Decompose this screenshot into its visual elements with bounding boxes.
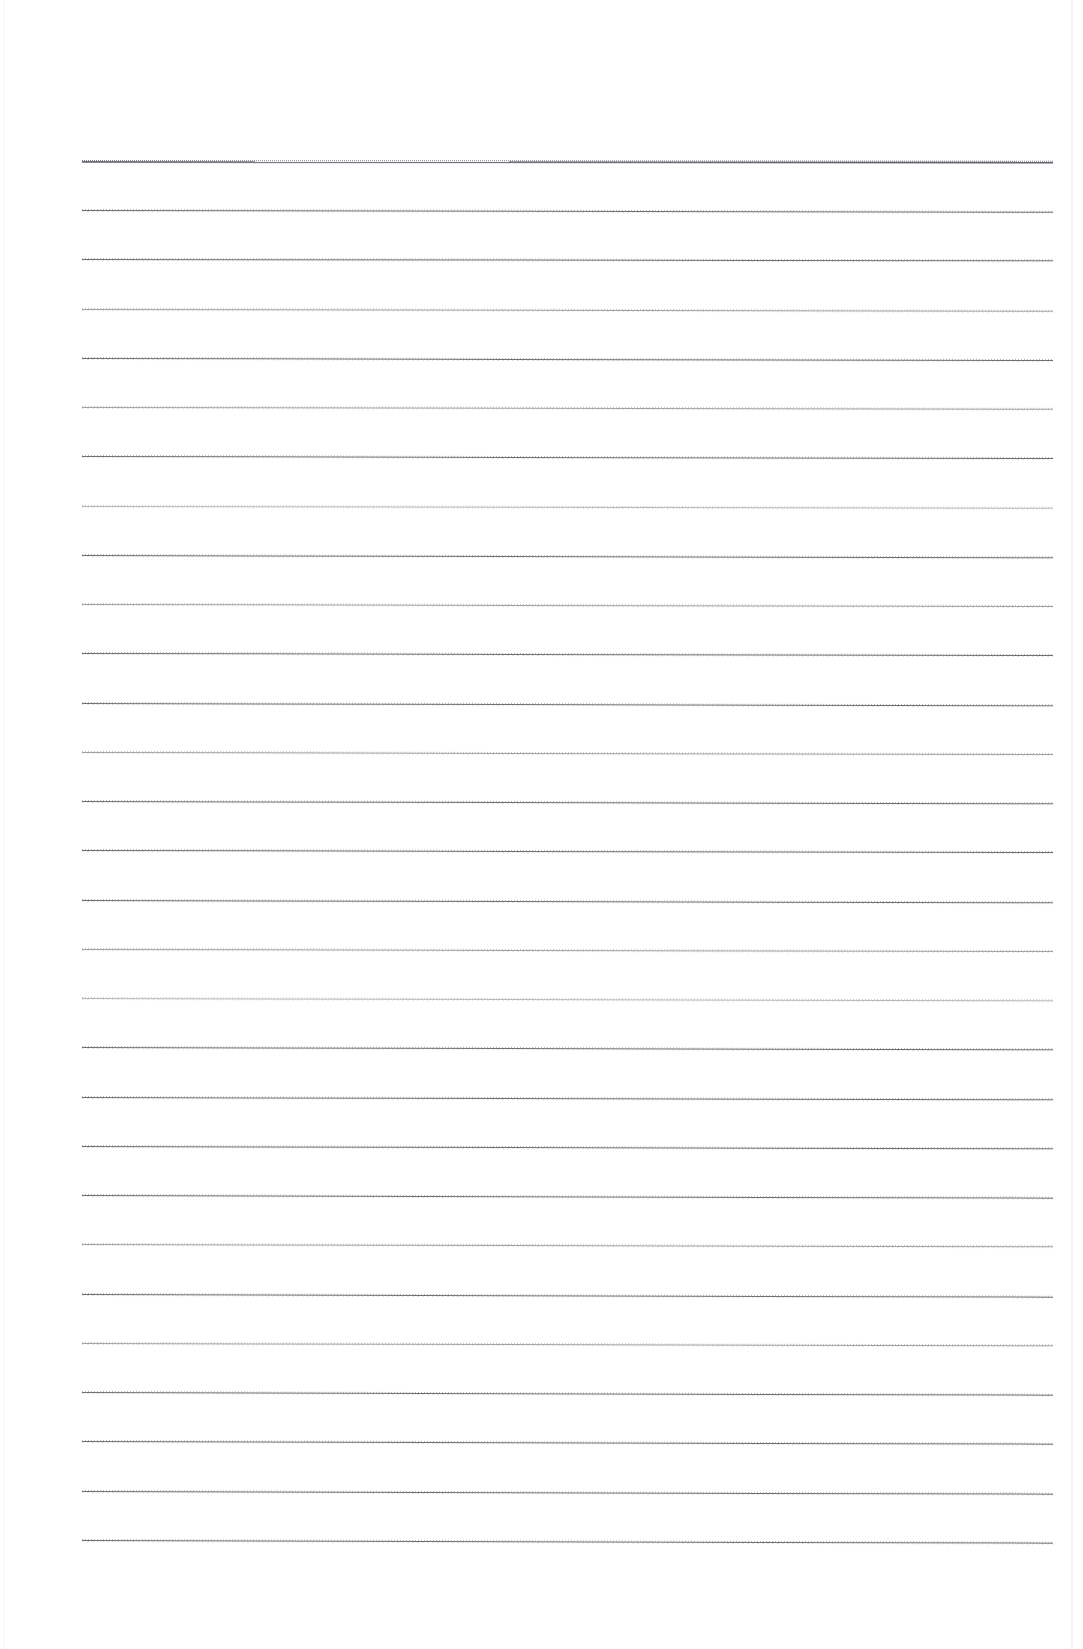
- ruled-line: [82, 1343, 1053, 1346]
- ruled-line: [82, 1491, 1053, 1495]
- ruled-line: [82, 407, 1053, 410]
- ruled-line: [82, 1146, 1053, 1149]
- ruled-line: [82, 900, 1053, 903]
- ruled-line: [82, 1540, 1053, 1544]
- ruled-lines-layer: [0, 0, 1083, 1649]
- scanned-page-sheet: [0, 0, 1083, 1649]
- ruled-line: [82, 358, 1053, 361]
- ruled-line: [82, 949, 1053, 952]
- ruled-line: [82, 1097, 1053, 1100]
- ruled-line: [82, 1392, 1053, 1396]
- ruled-line: [82, 210, 1053, 213]
- ruled-line: [82, 555, 1053, 558]
- ruled-line: [82, 1244, 1053, 1247]
- ruled-line: [82, 309, 1053, 312]
- ruled-line: [82, 801, 1053, 804]
- ruled-line: [82, 1195, 1053, 1199]
- ruled-line: [82, 1047, 1053, 1050]
- ruled-line: [82, 604, 1053, 607]
- ruled-line: [82, 998, 1053, 1001]
- ruled-line: [82, 161, 1053, 164]
- ruled-line: [82, 259, 1053, 261]
- ruled-line: [82, 850, 1053, 853]
- ruled-line: [82, 456, 1053, 459]
- ruled-line: [82, 703, 1053, 706]
- ruled-line: [82, 506, 1053, 509]
- ruled-line: [82, 752, 1053, 755]
- ruled-line: [82, 653, 1053, 656]
- ruled-line: [82, 1294, 1053, 1298]
- ruled-line: [82, 1441, 1053, 1445]
